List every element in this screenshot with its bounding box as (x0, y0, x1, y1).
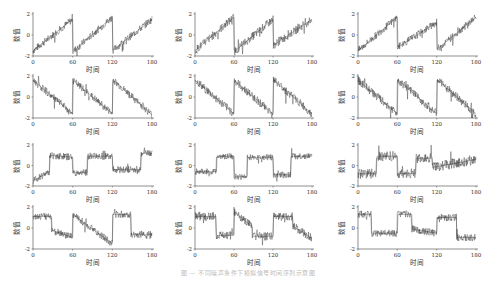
y-axis-label: 数值 (174, 90, 183, 104)
x-tick-label: 0 (31, 121, 35, 127)
y-tick-label: 2 (189, 204, 193, 210)
y-tick-label: 0 (27, 225, 31, 231)
signal-line (195, 207, 312, 245)
y-tick-label: 2 (27, 142, 31, 148)
x-tick-label: 180 (307, 121, 318, 127)
y-axis-label: 数值 (174, 221, 183, 235)
signal-line (358, 211, 476, 241)
subplot-r1-c1: 20-2060120180数值时间 (174, 73, 318, 136)
x-tick-label: 0 (31, 59, 35, 65)
x-tick-label: 180 (307, 189, 318, 195)
x-tick-label: 180 (147, 252, 158, 258)
x-tick-label: 0 (31, 189, 35, 195)
signal-line (195, 77, 312, 118)
x-axis-label: 时间 (86, 65, 100, 74)
x-axis-label: 时间 (410, 127, 424, 136)
x-tick-label: 120 (431, 121, 442, 127)
y-axis-label: 数值 (12, 221, 21, 235)
x-tick-label: 180 (307, 252, 318, 258)
signal-line (33, 148, 152, 185)
signal-line (195, 148, 312, 181)
x-tick-label: 120 (431, 252, 442, 258)
y-tick-label: 2 (189, 73, 193, 79)
subplot-r3-c0: 20-2060120180数值时间 (12, 204, 158, 267)
x-tick-label: 0 (193, 189, 197, 195)
x-tick-label: 60 (394, 59, 401, 65)
y-tick-label: 0 (27, 94, 31, 100)
x-axis-label: 时间 (247, 195, 261, 204)
y-tick-label: -2 (187, 246, 192, 252)
subplot-r3-c2: 20-2060120180数值时间 (337, 204, 482, 267)
y-axis-label: 数值 (337, 159, 346, 173)
y-tick-label: 0 (352, 94, 356, 100)
y-tick-label: 2 (352, 11, 356, 17)
x-tick-label: 60 (69, 189, 76, 195)
x-tick-label: 120 (107, 59, 118, 65)
x-tick-label: 0 (356, 252, 360, 258)
mean-line (195, 156, 312, 177)
x-tick-label: 120 (107, 252, 118, 258)
y-tick-label: -2 (25, 183, 30, 189)
y-axis-label: 数值 (174, 28, 183, 42)
y-tick-label: 2 (27, 11, 31, 17)
x-tick-label: 180 (147, 59, 158, 65)
y-tick-label: -2 (25, 53, 30, 59)
x-tick-label: 60 (231, 59, 238, 65)
x-axis-label: 时间 (247, 127, 261, 136)
y-tick-label: -2 (187, 115, 192, 121)
y-tick-label: 0 (189, 163, 193, 169)
x-tick-label: 180 (471, 121, 482, 127)
y-tick-label: -2 (350, 183, 355, 189)
subplot-r2-c0: 20-2060120180数值时间 (12, 142, 158, 204)
subplot-r0-c0: 20-2060120180数值时间 (12, 11, 158, 74)
x-tick-label: 180 (471, 189, 482, 195)
y-tick-label: 2 (352, 142, 356, 148)
signal-line (358, 76, 476, 118)
y-tick-label: 2 (189, 142, 193, 148)
signal-line (33, 14, 152, 56)
x-axis-label: 时间 (247, 258, 261, 267)
x-tick-label: 120 (268, 121, 279, 127)
signal-line (33, 209, 152, 245)
y-axis-label: 数值 (337, 221, 346, 235)
x-tick-label: 180 (471, 252, 482, 258)
x-tick-label: 60 (69, 252, 76, 258)
y-tick-label: -2 (350, 53, 355, 59)
x-tick-label: 180 (307, 59, 318, 65)
subplot-r0-c2: 20-2060120180数值时间 (337, 11, 482, 74)
signal-line (358, 15, 476, 51)
x-axis-label: 时间 (86, 258, 100, 267)
x-tick-label: 0 (193, 59, 197, 65)
x-tick-label: 60 (69, 59, 76, 65)
x-tick-label: 60 (394, 189, 401, 195)
subplot-r2-c2: 20-2060120180数值时间 (337, 142, 482, 204)
x-axis-label: 时间 (86, 195, 100, 204)
x-tick-label: 180 (147, 189, 158, 195)
y-tick-label: 0 (189, 94, 193, 100)
y-tick-label: 2 (352, 204, 356, 210)
subplot-r1-c0: 20-2060120180数值时间 (12, 73, 158, 136)
y-tick-label: -2 (187, 53, 192, 59)
x-tick-label: 180 (471, 59, 482, 65)
x-axis-label: 时间 (410, 195, 424, 204)
y-tick-label: 0 (352, 32, 356, 38)
subplot-r3-c1: 20-2060120180数值时间 (174, 204, 318, 267)
subplot-r1-c2: 20-2060120180数值时间 (337, 73, 482, 136)
x-tick-label: 0 (193, 121, 197, 127)
x-axis-label: 时间 (410, 65, 424, 74)
y-axis-label: 数值 (12, 159, 21, 173)
x-tick-label: 120 (431, 189, 442, 195)
x-tick-label: 60 (231, 121, 238, 127)
y-tick-label: 0 (189, 225, 193, 231)
y-tick-label: 2 (352, 73, 356, 79)
subplot-r0-c1: 20-2060120180数值时间 (174, 11, 318, 74)
x-tick-label: 60 (394, 252, 401, 258)
mean-line (358, 80, 476, 114)
y-tick-label: 0 (352, 163, 356, 169)
x-tick-label: 0 (356, 121, 360, 127)
x-tick-label: 120 (107, 121, 118, 127)
y-tick-label: 0 (189, 32, 193, 38)
y-tick-label: -2 (25, 246, 30, 252)
y-tick-label: -2 (350, 246, 355, 252)
signal-line (195, 14, 312, 55)
